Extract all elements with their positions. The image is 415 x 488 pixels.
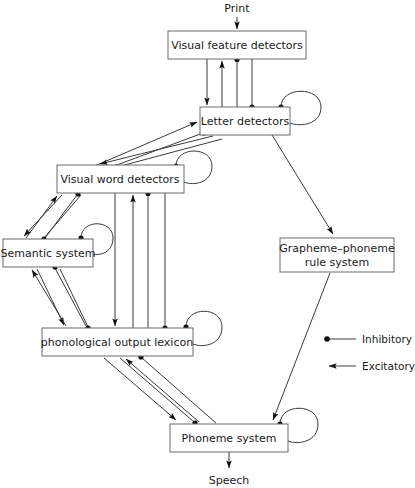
connector-letter-to-vwd-inhib: [117, 139, 222, 167]
node-phonological-output-lexicon[interactable]: phonological output lexicon: [41, 328, 193, 356]
node-visual-word-detectors[interactable]: Visual word detectors: [57, 165, 184, 193]
reading-model-diagram: Print: [0, 0, 415, 488]
connector-pol-to-phoneme-inhib: [120, 358, 194, 422]
legend-item-inhibitory: Inhibitory: [324, 333, 412, 345]
connector-vwd-to-semantic-inhib: [44, 195, 81, 238]
node-visual-feature-detectors[interactable]: Visual feature detectors: [168, 31, 306, 59]
legend-excitatory-label: Excitatory: [362, 360, 415, 372]
connector-pol-to-semantic-inhib: [55, 268, 86, 326]
node-label-line1: Grapheme–phoneme: [279, 242, 395, 255]
connector-pol-to-phoneme-excit: [104, 358, 176, 420]
node-label: Semantic system: [1, 247, 96, 260]
inhibitory-dot: [324, 336, 330, 342]
node-label: Phoneme system: [182, 432, 277, 445]
legend-item-excitatory: Excitatory: [329, 360, 415, 372]
connector-phoneme-to-pol-excit: [126, 359, 199, 422]
node-grapheme-phoneme-rule-system[interactable]: Grapheme–phoneme rule system: [279, 238, 395, 272]
connector-letter-to-grapheme: [272, 135, 333, 234]
output-label: Speech: [209, 474, 250, 487]
node-label: Letter detectors: [201, 115, 290, 128]
connector-vwd-to-semantic-excit: [24, 195, 62, 236]
node-label: Visual word detectors: [60, 173, 179, 186]
node-semantic-system[interactable]: Semantic system: [1, 239, 96, 267]
input-label: Print: [224, 2, 250, 15]
connector-semantic-to-pol-inhib: [60, 269, 88, 327]
legend: Inhibitory Excitatory: [324, 333, 415, 372]
node-letter-detectors[interactable]: Letter detectors: [200, 107, 290, 135]
node-label: phonological output lexicon: [41, 336, 193, 349]
node-label-line2: rule system: [305, 256, 370, 269]
connector-letter-to-vwd-excit: [100, 136, 213, 164]
node-phoneme-system[interactable]: Phoneme system: [170, 424, 288, 452]
legend-inhibitory-label: Inhibitory: [362, 333, 412, 345]
connector-phoneme-to-pol-inhib: [142, 358, 216, 423]
connector-grapheme-to-phoneme: [273, 273, 330, 420]
connector-vwd-to-letter-excit: [90, 122, 197, 168]
node-label: Visual feature detectors: [171, 39, 303, 52]
